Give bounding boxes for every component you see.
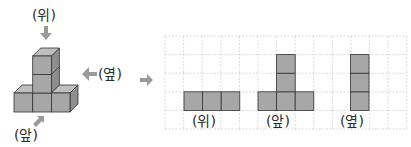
caption-side-view: (옆): [340, 113, 364, 129]
arrow-right-icon: [140, 74, 153, 86]
label-top-view: (위): [32, 7, 56, 23]
arrow-down-icon: [40, 26, 52, 40]
arrow-up-right-icon: [33, 116, 44, 127]
label-front-view: (앞): [14, 127, 38, 143]
cube-figure-3d: [14, 48, 78, 112]
label-side-view: (옆): [98, 66, 122, 82]
caption-top-view: (위): [192, 113, 216, 129]
arrow-left-icon: [82, 67, 97, 81]
caption-front-view: (앞): [266, 113, 290, 129]
front-view-shape: [258, 55, 314, 111]
side-view-shape: [350, 55, 369, 111]
top-view-shape: [184, 92, 240, 111]
